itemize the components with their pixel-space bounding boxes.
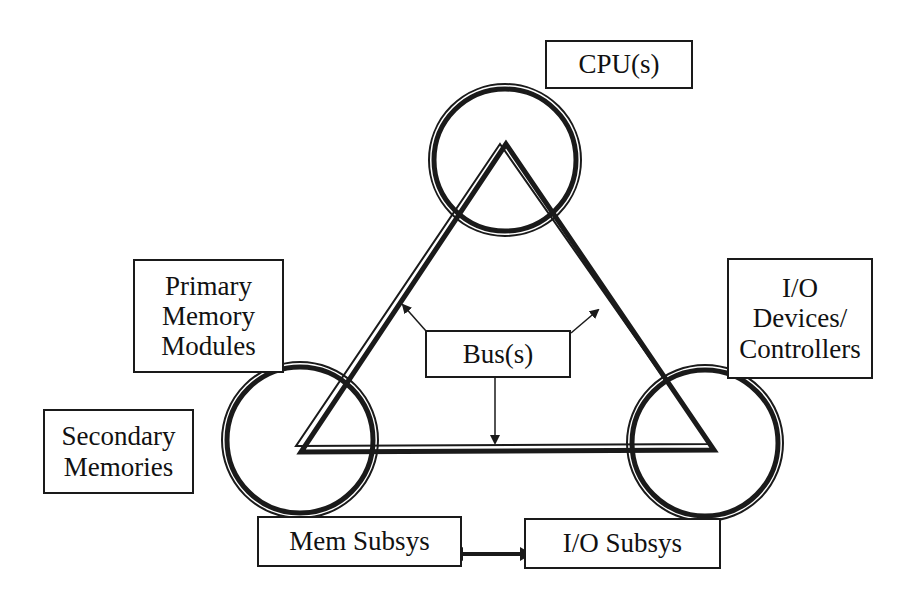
cpu-circle (429, 84, 581, 236)
bus-arrow-left (403, 305, 426, 331)
io-devices-label-line: Devices/ (753, 303, 847, 333)
io-subsys-label-box: I/O Subsys (524, 518, 721, 569)
bus-arrow-right (571, 310, 598, 333)
io-devices-label-box: I/O Devices/ Controllers (727, 258, 873, 379)
io-devices-label-line: I/O (782, 273, 818, 303)
primary-memory-label-line: Primary (165, 271, 252, 301)
io-devices-label-line: Controllers (739, 334, 861, 364)
cpu-label-box: CPU(s) (545, 40, 693, 89)
io-subsys-label: I/O Subsys (563, 528, 682, 558)
cpu-label: CPU(s) (578, 49, 659, 79)
secondary-memory-label-box: Secondary Memories (43, 409, 194, 494)
mem-subsys-label-box: Mem Subsys (257, 516, 462, 567)
primary-memory-label-box: Primary Memory Modules (133, 259, 284, 373)
primary-memory-label-line: Memory (162, 301, 255, 331)
primary-memory-label-line: Modules (161, 331, 256, 361)
bus-label: Bus(s) (463, 339, 534, 369)
secondary-memory-label-line: Secondary (62, 421, 176, 451)
io-subsys-circle (627, 365, 783, 521)
bus-triangle (296, 144, 714, 452)
bus-label-box: Bus(s) (425, 330, 571, 378)
secondary-memory-label-line: Memories (64, 452, 173, 482)
mem-subsys-label: Mem Subsys (289, 526, 429, 556)
